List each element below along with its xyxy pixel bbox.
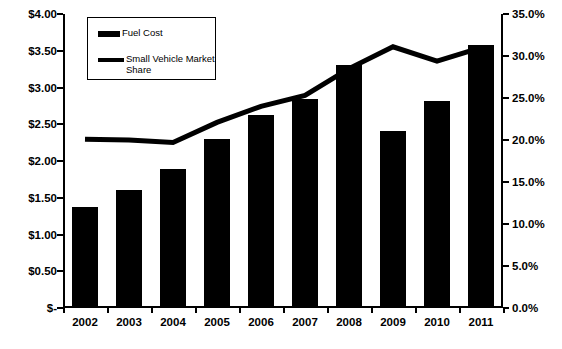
x-axis-tick-label: 2009 — [380, 316, 406, 328]
x-axis-tick-label: 2005 — [204, 316, 230, 328]
legend-item-fuel-cost: Fuel Cost — [98, 28, 163, 39]
right-axis-tick-label: 35.0% — [512, 8, 560, 20]
x-axis-tick-label: 2006 — [248, 316, 274, 328]
x-axis-tick — [371, 308, 373, 313]
right-axis-tick — [503, 55, 509, 57]
x-axis-tick-label: 2008 — [336, 316, 362, 328]
left-axis-tick-label: $3.00 — [0, 82, 57, 94]
x-axis-tick-label: 2002 — [72, 316, 98, 328]
right-axis-tick — [503, 13, 509, 15]
right-axis-tick-label: 25.0% — [512, 92, 560, 104]
legend-item-small-vehicle-market-share: Small Vehicle Market Share — [98, 54, 215, 75]
x-axis-tick — [195, 308, 197, 313]
x-axis-tick-label: 2011 — [469, 316, 494, 328]
left-axis-tick-label: $2.00 — [0, 155, 57, 167]
chart-legend: Fuel Cost Small Vehicle Market Share — [87, 17, 216, 80]
legend-label-small-vehicle-market-share: Small Vehicle Market Share — [126, 54, 215, 75]
left-axis-tick-label: $2.50 — [0, 118, 57, 130]
x-axis-tick-label: 2007 — [292, 316, 318, 328]
x-axis-tick — [107, 308, 109, 313]
x-axis-tick — [415, 308, 417, 313]
right-axis-tick-label: 10.0% — [512, 218, 560, 230]
x-axis-tick — [459, 308, 461, 313]
left-axis-tick-label: $1.50 — [0, 192, 57, 204]
legend-label-fuel-cost: Fuel Cost — [122, 28, 163, 39]
left-axis-tick-label: $1.00 — [0, 229, 57, 241]
x-axis-tick — [151, 308, 153, 313]
x-axis-tick-label: 2004 — [160, 316, 186, 328]
right-axis-tick — [503, 265, 509, 267]
left-axis-tick-label: $4.00 — [0, 8, 57, 20]
x-axis-tick — [503, 308, 505, 313]
right-axis-tick — [503, 223, 509, 225]
right-axis-tick — [503, 139, 509, 141]
right-axis-tick — [503, 97, 509, 99]
right-axis-tick-label: 30.0% — [512, 50, 560, 62]
left-axis-tick-label: $0.50 — [0, 265, 57, 277]
right-axis-tick-label: 20.0% — [512, 134, 560, 146]
line-swatch-icon — [98, 58, 124, 62]
right-axis-tick-label: 0.0% — [512, 302, 560, 314]
x-axis-tick — [327, 308, 329, 313]
right-axis-tick — [503, 181, 509, 183]
chart-container: $-$0.50$1.00$1.50$2.00$2.50$3.00$3.50$4.… — [0, 0, 562, 349]
left-axis-tick-label: $3.50 — [0, 45, 57, 57]
right-axis-tick-label: 15.0% — [512, 176, 560, 188]
x-axis-tick — [63, 308, 65, 313]
bar-swatch-icon — [98, 31, 120, 37]
x-axis-tick — [239, 308, 241, 313]
x-axis-tick — [283, 308, 285, 313]
right-axis-tick-label: 5.0% — [512, 260, 560, 272]
x-axis-tick-label: 2010 — [424, 316, 450, 328]
x-axis-tick-label: 2003 — [116, 316, 142, 328]
left-axis-tick-label: $- — [0, 302, 57, 314]
